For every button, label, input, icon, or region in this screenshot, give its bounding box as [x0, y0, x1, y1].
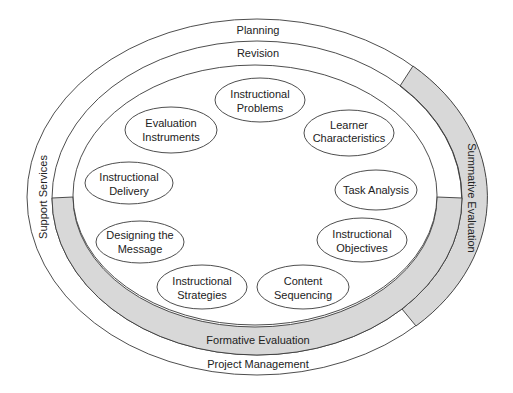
node-instructional-strategies: Instructional Strategies [157, 265, 247, 309]
node-shape [215, 78, 305, 122]
node-label-line: Strategies [177, 289, 227, 301]
formative-evaluation-label: Formative Evaluation [206, 334, 309, 346]
node-task-analysis: Task Analysis [335, 170, 417, 210]
node-content-sequencing: Content Sequencing [257, 265, 349, 309]
node-label-line: Designing the [106, 229, 173, 241]
node-label-line: Evaluation [145, 117, 196, 129]
node-label-line: Instructional [332, 228, 391, 240]
node-label-line: Task Analysis [343, 184, 410, 196]
node-label-line: Learner [330, 119, 368, 131]
node-label-line: Delivery [109, 185, 149, 197]
planning-label: Planning [237, 24, 280, 36]
node-shape [317, 218, 407, 262]
node-designing-the-message: Designing the Message [96, 221, 184, 263]
node-label-line: Objectives [336, 242, 388, 254]
node-instructional-problems: Instructional Problems [215, 78, 305, 122]
project-management-label: Project Management [207, 358, 309, 370]
node-shape [96, 221, 184, 263]
node-evaluation-instruments: Evaluation Instruments [125, 107, 217, 153]
node-label-line: Message [118, 243, 163, 255]
node-label-line: Characteristics [313, 132, 386, 144]
node-label-line: Instruments [142, 131, 200, 143]
node-learner-characteristics: Learner Characteristics [304, 110, 394, 156]
node-label-line: Instructional [99, 171, 158, 183]
node-shape [157, 265, 247, 309]
node-label-line: Instructional [230, 88, 289, 100]
node-instructional-objectives: Instructional Objectives [317, 218, 407, 262]
support-services-label: Support Services [37, 155, 49, 239]
node-label-line: Problems [237, 102, 284, 114]
node-instructional-delivery: Instructional Delivery [85, 162, 173, 204]
summative-evaluation-label: Summative Evaluation [466, 143, 478, 252]
node-label-line: Content [284, 275, 323, 287]
node-shape [125, 107, 217, 153]
revision-label: Revision [237, 47, 279, 59]
node-shape [257, 265, 349, 309]
instructional-design-model-diagram: Planning Revision Support Services Summa… [0, 0, 513, 393]
node-label-line: Instructional [172, 275, 231, 287]
node-label-line: Sequencing [274, 289, 332, 301]
node-shape [85, 162, 173, 204]
